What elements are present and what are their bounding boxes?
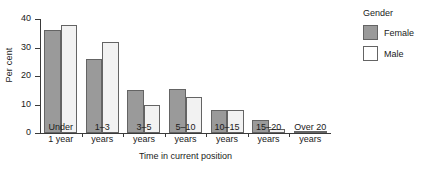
category-label-line: years — [289, 134, 331, 146]
y-axis-line — [40, 19, 41, 134]
legend-swatch-male — [363, 46, 378, 61]
y-tick: 30 — [35, 48, 40, 49]
category-label-line: years — [165, 134, 207, 146]
category-label-line: 1 year — [40, 134, 82, 146]
category-label: 5–10years — [165, 122, 207, 145]
y-tick: 20 — [35, 76, 40, 77]
bar-female — [44, 30, 61, 133]
category-label-line: years — [82, 134, 124, 146]
legend-entry-male: Male — [363, 46, 436, 61]
y-tick-label: 0 — [26, 127, 31, 137]
plot-area: 010203040 — [40, 19, 331, 133]
category-label-line: 10–15 — [206, 122, 248, 134]
y-tick: 10 — [35, 105, 40, 106]
bar-male — [61, 25, 78, 133]
category-label-line: Under — [40, 122, 82, 134]
category-label: 15–20years — [248, 122, 290, 145]
category-label-line: years — [206, 134, 248, 146]
legend-entry-female: Female — [363, 25, 436, 40]
category-label: 3–5years — [123, 122, 165, 145]
legend-label: Female — [384, 28, 414, 38]
category-label-line: 5–10 — [165, 122, 207, 134]
category-label-line: 3–5 — [123, 122, 165, 134]
bar-group — [127, 19, 160, 133]
y-tick-label: 20 — [21, 70, 31, 80]
bar-group — [169, 19, 202, 133]
y-tick-label: 30 — [21, 42, 31, 52]
bar-group — [44, 19, 77, 133]
category-label: 1–3years — [82, 122, 124, 145]
category-label-line: years — [123, 134, 165, 146]
x-axis-title: Time in current position — [40, 151, 331, 161]
category-label-line: years — [248, 134, 290, 146]
bar-group — [294, 19, 327, 133]
category-label-line: 1–3 — [82, 122, 124, 134]
legend-swatch-female — [363, 25, 378, 40]
y-tick: 40 — [35, 19, 40, 20]
bar-male — [102, 42, 119, 133]
bar-chart-figure: Per cent 010203040 Under1 year1–3years3–… — [0, 0, 436, 181]
bar-group — [86, 19, 119, 133]
y-tick-label: 10 — [21, 99, 31, 109]
legend-title: Gender — [363, 8, 436, 18]
category-label: 10–15years — [206, 122, 248, 145]
y-axis-title: Per cent — [4, 35, 14, 95]
category-label-line: 15–20 — [248, 122, 290, 134]
y-tick-label: 40 — [21, 13, 31, 23]
category-label-line: Over 20 — [289, 122, 331, 134]
bar-group — [211, 19, 244, 133]
legend-label: Male — [384, 49, 404, 59]
bar-group — [252, 19, 285, 133]
legend: Gender FemaleMale — [363, 8, 436, 67]
category-label: Over 20years — [289, 122, 331, 145]
category-label: Under1 year — [40, 122, 82, 145]
legend-entries: FemaleMale — [363, 25, 436, 61]
